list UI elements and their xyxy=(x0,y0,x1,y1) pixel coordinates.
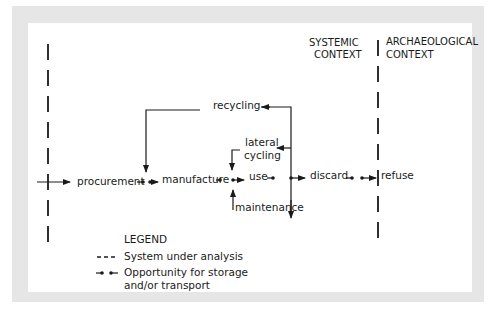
loop-recycling: recycling xyxy=(213,99,260,111)
legend: LEGEND System under analysis Opportunity… xyxy=(96,233,248,291)
legend-item-system: System under analysis xyxy=(124,250,243,262)
svg-text:ARCHAEOLOGICAL: ARCHAEOLOGICAL xyxy=(386,36,478,47)
svg-text:cycling: cycling xyxy=(244,149,281,161)
stage-refuse: refuse xyxy=(381,169,414,181)
loop-maintenance: maintenance xyxy=(235,201,304,213)
recycling-return-line xyxy=(261,107,291,216)
legend-item-storage: Opportunity for storage xyxy=(124,266,248,278)
svg-text:CONTEXT: CONTEXT xyxy=(314,49,362,60)
svg-text:CONTEXT: CONTEXT xyxy=(386,49,434,60)
legend-title: LEGEND xyxy=(124,233,167,245)
systemic-context-header: SYSTEMIC CONTEXT xyxy=(309,37,362,60)
stage-discard: discard xyxy=(310,169,348,181)
lateral-cycling-arrow-down xyxy=(232,150,240,170)
loop-lateral-cycling: lateral cycling xyxy=(244,136,281,161)
stage-procurement: procurement xyxy=(77,175,145,187)
recycling-arrow-down xyxy=(146,110,200,172)
legend-item-storage-2: and/or transport xyxy=(124,279,210,291)
svg-text:SYSTEMIC: SYSTEMIC xyxy=(309,37,359,48)
stage-use: use xyxy=(249,170,268,182)
storage-transport-icon xyxy=(216,178,244,182)
storage-transport-icon xyxy=(346,176,376,180)
svg-text:lateral: lateral xyxy=(245,136,279,148)
storage-transport-icon xyxy=(267,176,305,180)
life-cycle-diagram: SYSTEMIC CONTEXT ARCHAEOLOGICAL CONTEXT … xyxy=(0,0,495,318)
storage-dots-icon xyxy=(96,271,118,275)
archaeological-context-header: ARCHAEOLOGICAL CONTEXT xyxy=(386,36,478,60)
